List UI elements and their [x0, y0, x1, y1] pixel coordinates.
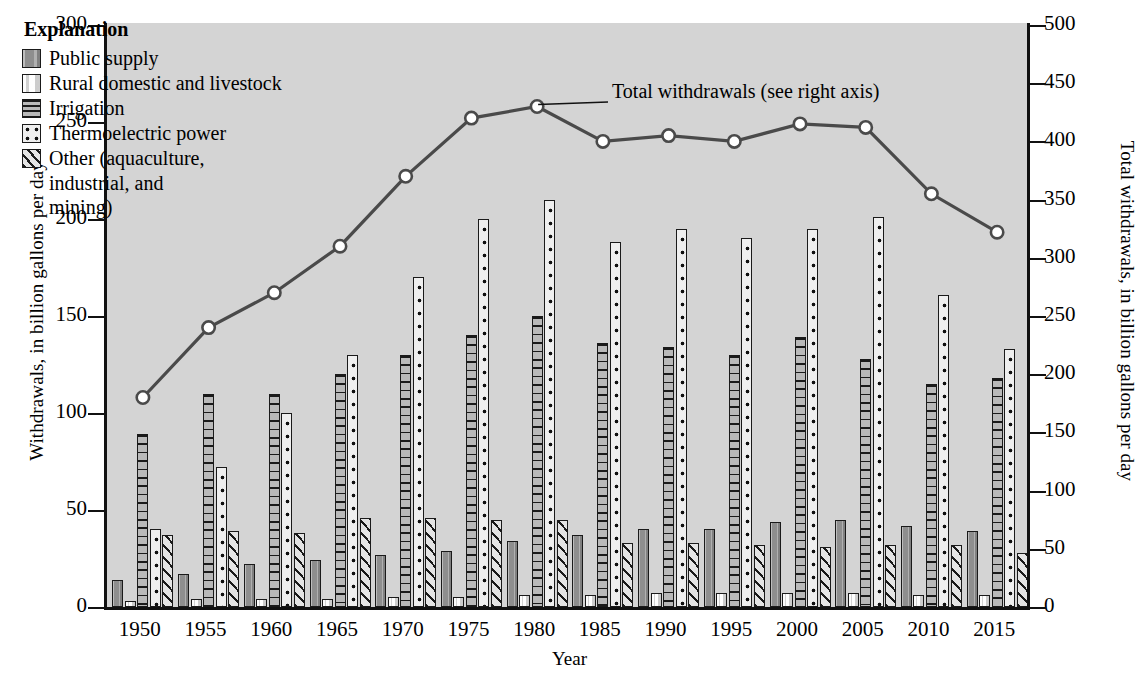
legend-item-other: Other (aquaculture,	[22, 146, 282, 170]
legend: Explanation Public supply Rural domestic…	[22, 18, 282, 219]
legend-item-irrigation: Irrigation	[22, 96, 282, 120]
legend-label: Other (aquaculture,	[49, 146, 204, 170]
legend-label-cont-2: mining)	[49, 195, 282, 219]
legend-item-rural-domestic: Rural domestic and livestock	[22, 71, 282, 95]
legend-item-thermoelectric: Thermoelectric power	[22, 121, 282, 145]
thermoelectric-swatch-icon	[22, 124, 41, 143]
annotation-leader	[538, 102, 608, 104]
irrigation-swatch-icon	[22, 99, 41, 118]
legend-label: Rural domestic and livestock	[49, 71, 282, 95]
legend-label: Irrigation	[49, 96, 125, 120]
legend-label-cont-1: industrial, and	[49, 171, 282, 195]
legend-item-public-supply: Public supply	[22, 46, 282, 70]
chart-root: Withdrawals, in billion gallons per day …	[0, 0, 1139, 684]
public-supply-swatch-icon	[22, 49, 41, 68]
rural-domestic-swatch-icon	[22, 74, 41, 93]
legend-label: Public supply	[49, 46, 158, 70]
legend-label: Thermoelectric power	[49, 121, 226, 145]
other-swatch-icon	[22, 149, 41, 168]
legend-title: Explanation	[24, 18, 282, 41]
